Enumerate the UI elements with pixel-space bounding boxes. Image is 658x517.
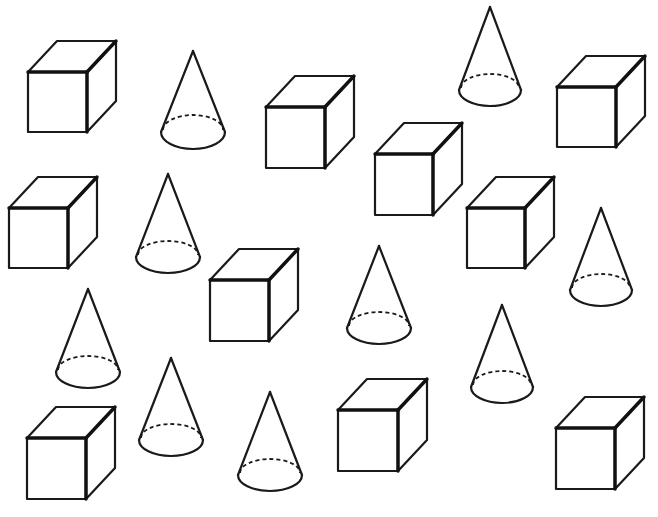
cube-shape — [266, 76, 354, 168]
cone-shape — [570, 208, 632, 306]
cone-shape — [471, 305, 533, 403]
cube-shape — [210, 249, 298, 341]
cube-shape — [557, 56, 645, 147]
cone-shape — [136, 174, 200, 273]
cone-shape — [347, 246, 411, 344]
shapes-drawing — [0, 0, 658, 517]
cube-shape — [467, 177, 554, 268]
shapes-worksheet — [0, 0, 658, 517]
cube-shape — [375, 123, 462, 215]
cube-shape — [556, 397, 644, 489]
cube-shape — [338, 379, 427, 471]
cube-shape — [28, 41, 116, 132]
cone-shape — [139, 358, 203, 456]
cone-shape — [459, 7, 521, 106]
cube-shape — [9, 177, 97, 268]
cube-shape — [27, 407, 115, 499]
cone-shape — [238, 392, 302, 491]
cone-shape — [56, 289, 120, 388]
cone-shape — [161, 51, 225, 149]
